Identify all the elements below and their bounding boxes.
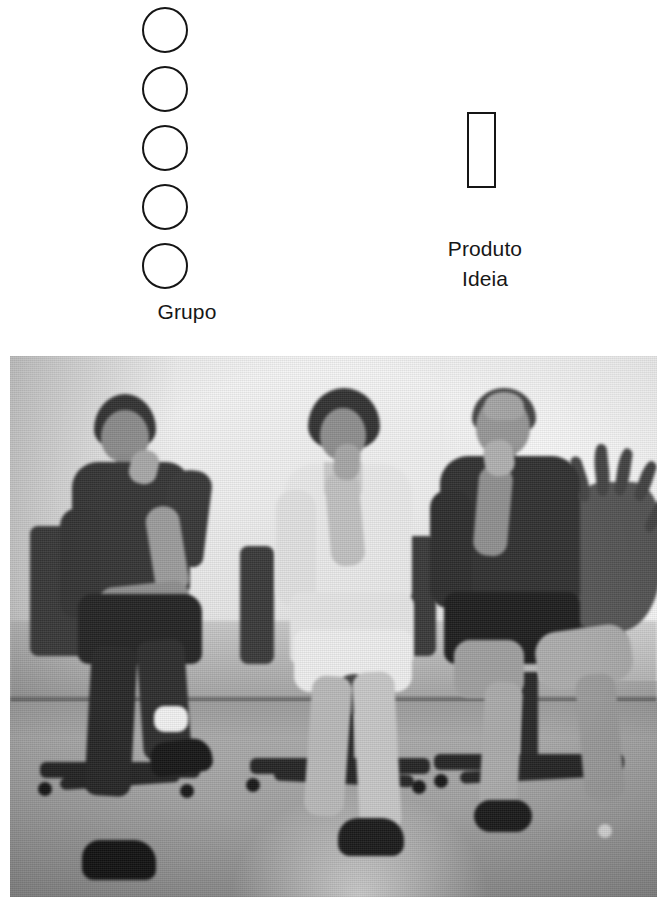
product-rectangle bbox=[467, 112, 496, 188]
group-circle-1 bbox=[142, 7, 188, 53]
photograph bbox=[10, 356, 657, 897]
person-center-leg-2 bbox=[352, 671, 402, 833]
person-center bbox=[272, 386, 432, 886]
person-right-arm bbox=[430, 490, 472, 608]
person-left-shoe-2 bbox=[82, 840, 156, 880]
product-label-line-2: Ideia bbox=[420, 264, 550, 294]
group-node: Grupo bbox=[132, 0, 242, 330]
person-left bbox=[54, 388, 224, 888]
page-root: Grupo Produto Ideia bbox=[0, 0, 669, 919]
person-center-leg-1 bbox=[303, 675, 353, 817]
person-center-arm bbox=[276, 490, 316, 606]
group-circle-2 bbox=[142, 66, 188, 112]
product-label: Produto Ideia bbox=[420, 234, 550, 294]
group-circle-4 bbox=[142, 184, 188, 230]
person-right-shoe bbox=[474, 800, 532, 832]
group-circle-3 bbox=[142, 125, 188, 171]
person-right-leg-2 bbox=[575, 672, 626, 801]
person-right-forehead bbox=[484, 392, 524, 420]
person-right bbox=[430, 382, 650, 882]
group-circle-5 bbox=[142, 243, 188, 289]
person-right-leg-1 bbox=[479, 681, 524, 813]
diagram-area: Grupo Produto Ideia bbox=[0, 0, 669, 345]
photograph-content bbox=[10, 356, 657, 897]
person-left-leg-1 bbox=[84, 645, 138, 797]
group-label: Grupo bbox=[112, 299, 262, 324]
person-center-shoe bbox=[338, 818, 404, 856]
product-label-line-1: Produto bbox=[420, 234, 550, 264]
person-left-sock bbox=[154, 706, 188, 732]
product-node: Produto Ideia bbox=[420, 0, 550, 300]
